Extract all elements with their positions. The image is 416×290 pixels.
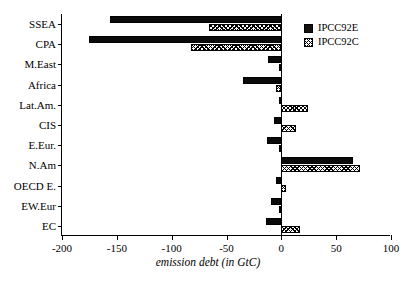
bar-ipcc92c: [281, 125, 295, 132]
x-axis-tick-label: -50: [219, 243, 234, 254]
solid-black-swatch: [304, 24, 313, 33]
x-axis-tick: [117, 235, 118, 240]
x-axis-tick: [281, 235, 282, 240]
legend: IPCC92E IPCC92C: [300, 18, 364, 52]
bar-ipcc92e: [267, 137, 281, 144]
hatched-swatch: [304, 38, 313, 47]
y-axis-tick-label: CPA: [36, 39, 56, 50]
x-axis-tick-label: -100: [162, 243, 182, 254]
legend-label-ipcc92e: IPCC92E: [318, 23, 358, 34]
y-axis-tick: [58, 125, 62, 126]
y-axis-tick-label: EW.Eur: [21, 200, 56, 211]
x-axis-tick-label: 100: [383, 243, 400, 254]
bar-ipcc92c: [279, 64, 281, 71]
y-axis-tick-label: OECD E.: [14, 180, 56, 191]
x-axis-tick-label: -150: [107, 243, 127, 254]
x-axis-tick: [62, 235, 63, 240]
bar-group: [62, 75, 391, 95]
y-axis-tick: [58, 85, 62, 86]
y-axis-tick: [58, 24, 62, 25]
x-axis-tick-label: 50: [331, 243, 342, 254]
y-axis-tick-label: CIS: [39, 120, 56, 131]
y-axis-tick-label: SSEA: [29, 19, 56, 30]
bar-ipcc92e: [89, 36, 281, 43]
x-axis-tick: [172, 235, 173, 240]
bar-group: [62, 216, 391, 236]
bar-ipcc92e: [243, 77, 281, 84]
bar-ipcc92e: [110, 16, 281, 23]
bar-ipcc92c: [191, 44, 281, 51]
bar-ipcc92c: [209, 24, 281, 31]
y-axis-tick: [58, 145, 62, 146]
emission-debt-bar-chart: SSEACPAM.EastAfricaLat.Am.CISE.Eur.N.AmO…: [0, 0, 416, 290]
bar-ipcc92e: [274, 117, 282, 124]
bar-ipcc92c: [276, 85, 281, 92]
bar-group: [62, 54, 391, 74]
y-axis-tick: [58, 105, 62, 106]
y-axis-tick: [58, 206, 62, 207]
y-axis-tick-label: E.Eur.: [29, 140, 57, 151]
x-axis-tick-label: -200: [52, 243, 72, 254]
legend-item-ipcc92e: IPCC92E: [304, 21, 359, 35]
y-axis-tick: [58, 44, 62, 45]
x-axis-tick: [391, 235, 392, 240]
y-axis-tick-label: M.East: [25, 59, 56, 70]
y-axis-tick: [58, 186, 62, 187]
bar-ipcc92e: [271, 198, 281, 205]
bar-ipcc92c: [281, 185, 285, 192]
bar-group: [62, 95, 391, 115]
x-axis-title: emission debt (in GtC): [0, 256, 416, 268]
x-axis-tick: [227, 235, 228, 240]
bar-ipcc92e: [266, 218, 281, 225]
x-axis-title-text: emission debt (in GtC): [156, 256, 260, 268]
bar-ipcc92c: [279, 206, 281, 213]
x-axis-tick-label: 0: [279, 243, 285, 254]
y-axis-tick: [58, 226, 62, 227]
y-axis-tick: [58, 165, 62, 166]
bar-ipcc92c: [281, 226, 300, 233]
y-axis-tick-label: N.Am: [29, 160, 56, 171]
y-axis-tick: [58, 64, 62, 65]
bar-ipcc92c: [281, 165, 360, 172]
bar-group: [62, 155, 391, 175]
bar-group: [62, 175, 391, 195]
bar-group: [62, 196, 391, 216]
bar-ipcc92e: [281, 157, 352, 164]
bar-ipcc92c: [279, 145, 281, 152]
bar-ipcc92e: [279, 97, 281, 104]
legend-item-ipcc92c: IPCC92C: [304, 35, 359, 49]
bar-ipcc92e: [268, 56, 281, 63]
bar-group: [62, 135, 391, 155]
bar-ipcc92e: [276, 177, 281, 184]
x-axis-tick: [336, 235, 337, 240]
bar-group: [62, 115, 391, 135]
bar-ipcc92c: [281, 105, 307, 112]
y-axis-tick-label: Lat.Am.: [19, 99, 56, 110]
y-axis-tick-label: EC: [42, 220, 56, 231]
y-axis-tick-label: Africa: [28, 79, 56, 90]
legend-label-ipcc92c: IPCC92C: [318, 37, 359, 48]
